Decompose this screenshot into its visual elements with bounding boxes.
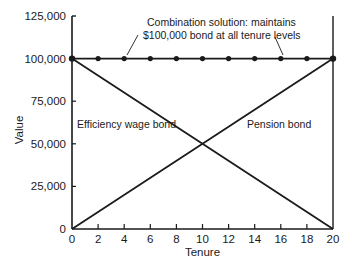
y-tick-label: 50,000	[31, 138, 66, 150]
annotation-efficiency-wage-bond: Efficiency wage bond	[77, 118, 176, 130]
annotation-pointer-left	[127, 35, 138, 55]
y-axis-title: Value	[13, 116, 25, 145]
x-tick-label: 6	[147, 233, 153, 245]
y-tick-label: 0	[60, 223, 66, 235]
data-point-marker	[200, 56, 205, 61]
x-tick-label: 0	[69, 233, 75, 245]
x-tick-label: 16	[274, 233, 287, 245]
data-point-marker	[96, 56, 101, 61]
data-point-marker	[304, 56, 309, 61]
plot-area	[69, 55, 336, 229]
chart: 025,00050,00075,000100,000125,0000246810…	[0, 0, 352, 269]
data-point-marker	[148, 56, 153, 61]
annotation-pension-bond: Pension bond	[247, 118, 311, 130]
y-tick-label: 125,000	[24, 10, 66, 22]
data-point-marker	[122, 56, 127, 61]
data-point-marker	[226, 56, 231, 61]
y-tick-label: 100,000	[24, 53, 66, 65]
x-tick-label: 10	[196, 233, 209, 245]
y-tick-label: 25,000	[31, 180, 66, 192]
y-tick-label: 75,000	[31, 95, 66, 107]
x-tick-label: 2	[95, 233, 101, 245]
annotation-combination-line2: $100,000 bond at all tenure levels	[143, 29, 301, 41]
data-point-marker	[174, 56, 179, 61]
x-axis-title: Tenure	[185, 246, 220, 258]
data-point-marker	[278, 56, 283, 61]
x-tick-label: 4	[121, 233, 128, 245]
data-point-marker	[252, 56, 257, 61]
x-tick-label: 20	[327, 233, 340, 245]
x-tick-label: 18	[301, 233, 314, 245]
x-tick-label: 12	[222, 233, 235, 245]
annotation-combination-line1: Combination solution: maintains	[147, 16, 296, 28]
x-tick-label: 14	[248, 233, 261, 245]
x-tick-label: 8	[173, 233, 179, 245]
